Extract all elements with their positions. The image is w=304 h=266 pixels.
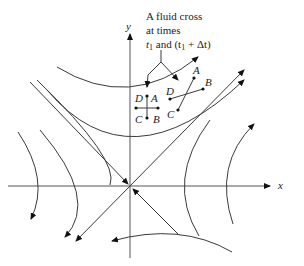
annotation-line-1: A fluid cross [146, 10, 202, 22]
point-d-later: D [165, 85, 174, 97]
point-c-initial: C [135, 113, 143, 125]
right-streamline-outer [226, 124, 254, 224]
right-streamline-inner [184, 120, 210, 236]
left-streamline-outer [18, 132, 38, 219]
annotation-text: A fluid cross at times t1 and (t1 + Δt) [146, 10, 211, 52]
y-axis-label: y [125, 20, 131, 32]
point-a-later: A [192, 64, 200, 76]
annotation-pointers [147, 50, 178, 87]
point-a-initial: A [150, 92, 158, 104]
annotation-line-2: at times [146, 24, 181, 36]
upper-left-streamline [37, 80, 111, 185]
point-b-later: B [205, 76, 212, 88]
annotation-line-3: t1 and (t1 + Δt) [146, 38, 211, 52]
point-b-initial: B [153, 113, 160, 125]
x-axis-label: x [277, 179, 283, 191]
stagnation-flow-diagram: x y A fluid cross [0, 0, 304, 266]
upper-streamline-inner [57, 57, 198, 87]
point-d-initial: D [134, 92, 143, 104]
point-c-later: C [167, 108, 175, 120]
left-streamline-inner [40, 130, 78, 237]
fluid-cross-initial: D A C B [134, 92, 160, 125]
